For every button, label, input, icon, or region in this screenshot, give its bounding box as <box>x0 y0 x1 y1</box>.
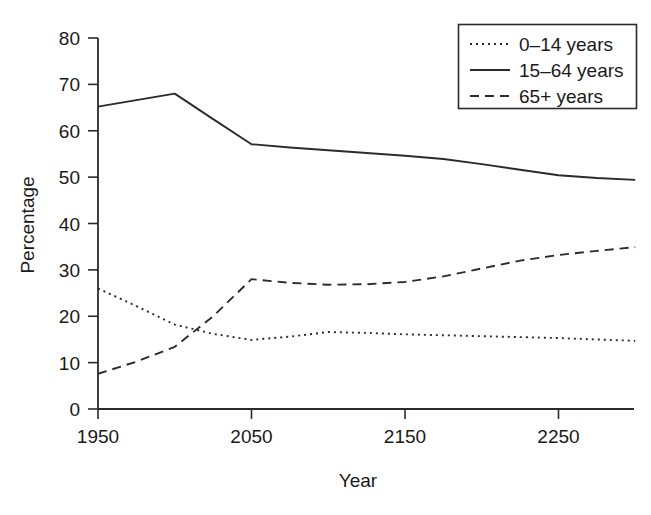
legend: 0–14 years 15–64 years 65+ years <box>459 25 637 109</box>
series-line-65-years <box>98 247 635 374</box>
x-axis-title: Year <box>339 470 378 491</box>
y-tick-label: 70 <box>59 74 80 95</box>
series-line-0-14-years <box>98 288 635 340</box>
legend-label-0-14-years: 0–14 years <box>519 34 613 55</box>
x-tick-label: 2050 <box>230 426 272 447</box>
x-tick-label: 2250 <box>537 426 579 447</box>
y-tick-label: 50 <box>59 167 80 188</box>
x-tick-label: 2150 <box>384 426 426 447</box>
y-tick-label: 80 <box>59 28 80 49</box>
y-tick-label: 20 <box>59 306 80 327</box>
y-tick-label: 0 <box>69 399 80 420</box>
line-chart: 01020304050607080 1950205021502250 Perce… <box>0 0 651 515</box>
y-axis-ticks: 01020304050607080 <box>59 28 98 420</box>
y-tick-label: 10 <box>59 353 80 374</box>
figure-container: 01020304050607080 1950205021502250 Perce… <box>0 0 651 515</box>
series-group <box>98 94 635 374</box>
y-axis-title: Percentage <box>17 176 38 273</box>
x-tick-label: 1950 <box>77 426 119 447</box>
legend-label-65-plus-years: 65+ years <box>519 86 603 107</box>
y-tick-label: 60 <box>59 121 80 142</box>
x-axis-ticks: 1950205021502250 <box>77 409 580 447</box>
y-tick-label: 40 <box>59 214 80 235</box>
y-tick-label: 30 <box>59 260 80 281</box>
legend-label-15-64-years: 15–64 years <box>519 60 624 81</box>
